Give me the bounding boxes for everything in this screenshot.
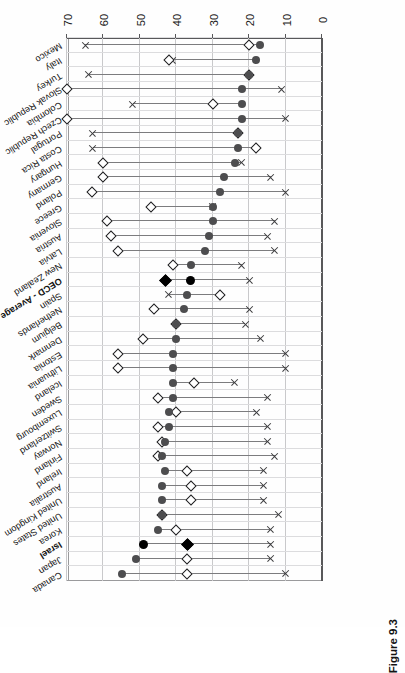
- data-point-diamond[interactable]: [98, 172, 109, 183]
- data-point-diamond[interactable]: [243, 40, 254, 51]
- data-point-circle[interactable]: [169, 364, 177, 372]
- data-point-cross[interactable]: [281, 188, 290, 197]
- data-point-circle[interactable]: [172, 335, 180, 343]
- data-point-cross[interactable]: [263, 422, 272, 431]
- data-point-cross[interactable]: [237, 158, 246, 167]
- data-point-circle[interactable]: [238, 115, 246, 123]
- data-point-cross[interactable]: [270, 217, 279, 226]
- data-point-diamond[interactable]: [87, 186, 98, 197]
- data-point-diamond[interactable]: [149, 304, 160, 315]
- data-point-circle[interactable]: [165, 423, 173, 431]
- data-point-cross[interactable]: [256, 334, 265, 343]
- data-point-cross[interactable]: [230, 378, 239, 387]
- data-point-cross[interactable]: [281, 349, 290, 358]
- data-point-cross[interactable]: [263, 232, 272, 241]
- data-point-diamond[interactable]: [181, 538, 194, 551]
- data-point-cross[interactable]: [88, 144, 97, 153]
- data-point-circle[interactable]: [238, 100, 246, 108]
- data-point-circle[interactable]: [186, 276, 195, 285]
- data-point-circle[interactable]: [161, 467, 169, 475]
- data-point-diamond[interactable]: [171, 524, 182, 535]
- gridline-horizontal: [67, 565, 322, 566]
- data-point-diamond[interactable]: [112, 245, 123, 256]
- data-point-circle[interactable]: [158, 511, 166, 519]
- data-point-cross[interactable]: [277, 85, 286, 94]
- data-point-circle[interactable]: [169, 379, 177, 387]
- data-point-cross[interactable]: [241, 320, 250, 329]
- data-point-circle[interactable]: [158, 482, 166, 490]
- data-point-cross[interactable]: [267, 525, 276, 534]
- data-point-cross[interactable]: [267, 173, 276, 182]
- data-point-circle[interactable]: [220, 173, 228, 181]
- data-point-circle[interactable]: [187, 261, 195, 269]
- data-point-diamond[interactable]: [185, 480, 196, 491]
- gridline-horizontal: [67, 331, 322, 332]
- data-point-circle[interactable]: [245, 71, 253, 79]
- data-point-diamond[interactable]: [152, 392, 163, 403]
- gridline-horizontal: [67, 96, 322, 97]
- data-point-diamond[interactable]: [182, 553, 193, 564]
- data-point-circle[interactable]: [169, 350, 177, 358]
- data-point-cross[interactable]: [259, 466, 268, 475]
- data-point-diamond[interactable]: [182, 568, 193, 579]
- data-point-diamond[interactable]: [159, 274, 172, 287]
- data-point-circle[interactable]: [180, 306, 188, 314]
- data-point-circle[interactable]: [256, 41, 264, 49]
- data-point-cross[interactable]: [281, 364, 290, 373]
- data-point-diamond[interactable]: [105, 230, 116, 241]
- data-point-diamond[interactable]: [214, 289, 225, 300]
- data-point-cross[interactable]: [84, 70, 93, 79]
- data-point-circle[interactable]: [165, 408, 173, 416]
- data-point-diamond[interactable]: [167, 260, 178, 271]
- data-point-cross[interactable]: [267, 555, 276, 564]
- data-point-circle[interactable]: [201, 247, 209, 255]
- data-point-circle[interactable]: [234, 129, 242, 137]
- gridline-horizontal: [67, 301, 322, 302]
- data-point-circle[interactable]: [169, 394, 177, 402]
- data-point-diamond[interactable]: [98, 157, 109, 168]
- data-point-cross[interactable]: [259, 481, 268, 490]
- data-point-circle[interactable]: [158, 452, 166, 460]
- data-point-cross[interactable]: [263, 393, 272, 402]
- data-point-circle[interactable]: [139, 540, 148, 549]
- data-point-diamond[interactable]: [112, 363, 123, 374]
- data-point-cross[interactable]: [252, 408, 261, 417]
- data-point-circle[interactable]: [252, 56, 260, 64]
- data-point-circle[interactable]: [209, 217, 217, 225]
- data-point-cross[interactable]: [281, 114, 290, 123]
- data-point-circle[interactable]: [209, 203, 217, 211]
- data-point-cross[interactable]: [263, 437, 272, 446]
- data-point-cross[interactable]: [259, 496, 268, 505]
- data-point-circle[interactable]: [161, 438, 169, 446]
- data-point-cross[interactable]: [165, 290, 174, 299]
- data-point-diamond[interactable]: [207, 98, 218, 109]
- data-point-cross[interactable]: [267, 540, 276, 549]
- data-point-diamond[interactable]: [251, 142, 262, 153]
- data-point-circle[interactable]: [234, 144, 242, 152]
- data-point-circle[interactable]: [154, 526, 162, 534]
- data-point-circle[interactable]: [231, 159, 239, 167]
- data-point-cross[interactable]: [281, 569, 290, 578]
- data-point-circle[interactable]: [172, 320, 180, 328]
- range-connector-line: [158, 455, 275, 456]
- data-point-cross[interactable]: [270, 452, 279, 461]
- data-point-diamond[interactable]: [112, 348, 123, 359]
- data-point-cross[interactable]: [128, 100, 137, 109]
- data-point-cross[interactable]: [237, 261, 246, 270]
- data-point-diamond[interactable]: [185, 495, 196, 506]
- data-point-diamond[interactable]: [145, 201, 156, 212]
- data-point-cross[interactable]: [81, 41, 90, 50]
- data-point-diamond[interactable]: [152, 421, 163, 432]
- data-point-cross[interactable]: [88, 129, 97, 138]
- data-point-circle[interactable]: [216, 188, 224, 196]
- data-point-cross[interactable]: [274, 510, 283, 519]
- data-point-circle[interactable]: [238, 85, 246, 93]
- data-point-circle[interactable]: [118, 570, 126, 578]
- data-point-circle[interactable]: [158, 496, 166, 504]
- data-point-diamond[interactable]: [189, 377, 200, 388]
- data-point-circle[interactable]: [183, 291, 191, 299]
- data-point-cross[interactable]: [270, 246, 279, 255]
- data-point-diamond[interactable]: [182, 465, 193, 476]
- data-point-cross[interactable]: [245, 276, 254, 285]
- data-point-cross[interactable]: [245, 305, 254, 314]
